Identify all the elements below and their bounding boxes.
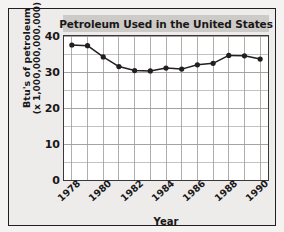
data-point — [85, 43, 90, 48]
data-point — [179, 67, 184, 72]
y-tick-label: 10 — [45, 138, 60, 151]
data-series-petroleum — [64, 36, 268, 180]
y-axis-tick-labels: 010203040 — [31, 35, 60, 181]
plot-area — [63, 35, 269, 181]
y-tick-label: 30 — [45, 66, 60, 79]
x-tick-label: 1988 — [212, 178, 239, 204]
x-tick-label: 1986 — [181, 178, 208, 204]
data-point — [226, 53, 231, 58]
x-tick-label: 1990 — [243, 178, 270, 204]
x-tick-label: 1980 — [87, 178, 114, 204]
x-axis-title: Year — [63, 216, 269, 227]
data-point — [69, 42, 74, 47]
x-tick-label: 1982 — [118, 178, 145, 204]
data-point — [242, 53, 247, 58]
data-point — [116, 64, 121, 69]
chart-title: Petroleum Used in the United States — [59, 18, 273, 30]
x-tick-label: 1984 — [149, 178, 176, 204]
y-tick-label: 0 — [52, 174, 60, 187]
x-axis-tick-labels: 1978198019821984198619881990 — [63, 182, 269, 216]
data-point — [258, 56, 263, 61]
plot-inner — [64, 36, 268, 180]
chart-title-band: Petroleum Used in the United States — [63, 15, 269, 32]
data-point — [132, 68, 137, 73]
chart-card: Petroleum Used in the United States Btu'… — [8, 8, 276, 226]
chart-figure: Petroleum Used in the United States Btu'… — [0, 0, 284, 232]
data-point — [148, 68, 153, 73]
data-point — [163, 65, 168, 70]
y-tick-label: 20 — [45, 102, 60, 115]
y-tick-label: 40 — [45, 30, 60, 43]
data-point — [101, 54, 106, 59]
data-point — [210, 61, 215, 66]
data-point — [195, 62, 200, 67]
